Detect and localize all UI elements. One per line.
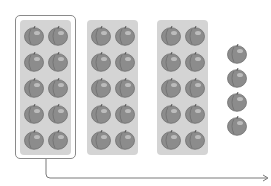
connector-arrow (0, 0, 271, 186)
